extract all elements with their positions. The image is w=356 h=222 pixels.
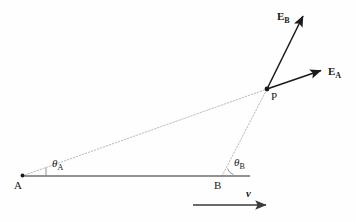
angle-subscript-a: A [57, 163, 63, 172]
figure-canvas-root: A B P θA θB EB EA v [0, 0, 356, 222]
vector-label-ea: EA [328, 66, 341, 80]
diagram-svg [0, 0, 356, 222]
point-label-b: B [214, 180, 221, 191]
vector-label-eb: EB [277, 11, 290, 25]
vector-subscript-b: B [284, 16, 289, 25]
angle-subscript-b: B [239, 162, 244, 171]
point-dot-a [21, 174, 25, 178]
angle-label-theta-a: θA [52, 158, 63, 172]
point-label-a: A [14, 180, 22, 191]
vector-subscript-a: A [335, 71, 341, 80]
point-label-p: P [271, 91, 277, 102]
vector-label-v: v [246, 188, 251, 199]
angle-arc-theta-b [228, 169, 234, 175]
angle-label-theta-b: θB [234, 157, 245, 171]
